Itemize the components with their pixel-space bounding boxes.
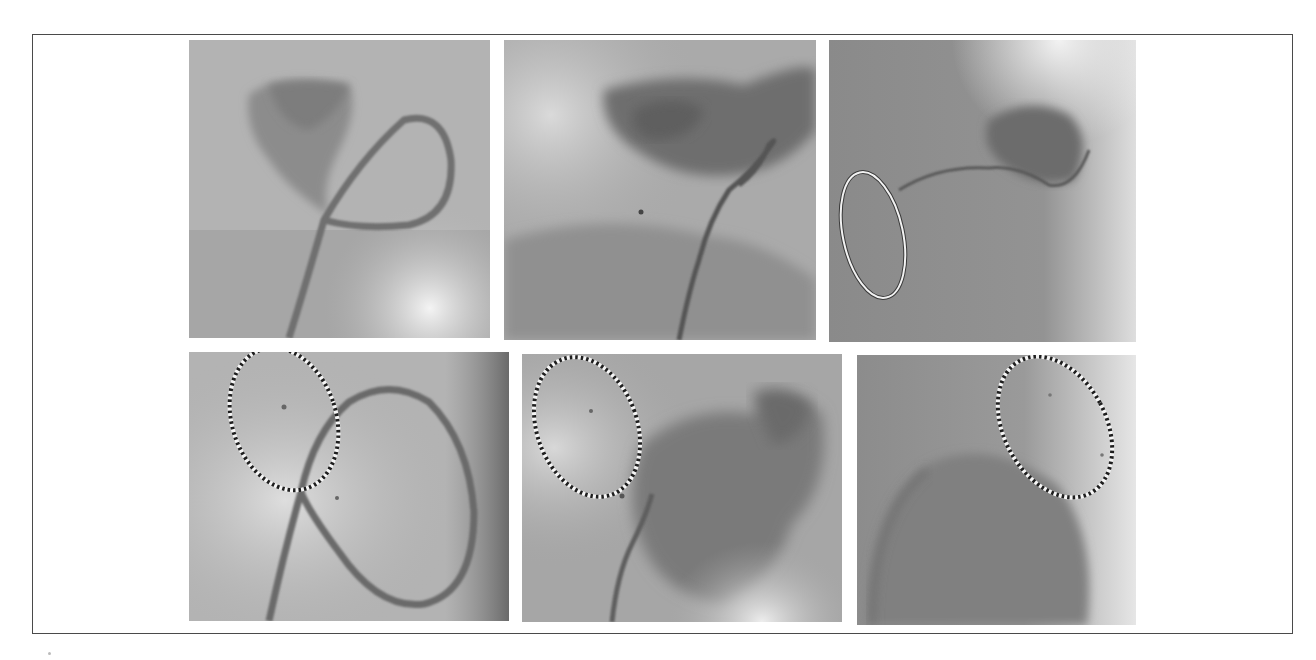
angiogram-image [829,40,1136,342]
angiogram-image [857,355,1136,625]
caption-artifact [48,652,51,655]
angiogram-image [189,352,509,621]
angiogram-image [504,40,816,340]
angiogram-image [189,40,490,338]
angiogram-panel-top-right [829,40,1136,342]
angiogram-panel-bottom-right [857,355,1136,625]
angiogram-panel-bottom-left [189,352,509,621]
angiogram-panel-top-middle [504,40,816,340]
angiogram-image [522,354,842,622]
angiogram-panel-bottom-middle [522,354,842,622]
angiogram-panel-top-left [189,40,490,338]
